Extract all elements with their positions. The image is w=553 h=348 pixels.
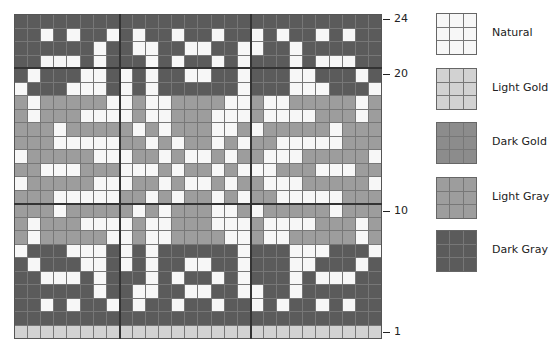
stitch-cell — [316, 245, 328, 258]
stitch-cell — [330, 299, 342, 312]
stitch-cell — [343, 69, 355, 82]
stitch-cell — [67, 177, 79, 190]
stitch-cell — [225, 83, 237, 96]
stitch-cell — [41, 15, 53, 28]
stitch-cell — [172, 42, 184, 55]
stitch-cell — [369, 272, 381, 285]
stitch-cell — [133, 204, 145, 217]
stitch-cell — [172, 272, 184, 285]
stitch-cell — [15, 245, 27, 258]
stitch-cell — [212, 218, 224, 231]
stitch-cell — [159, 137, 171, 150]
stitch-cell — [369, 245, 381, 258]
stitch-cell — [67, 312, 79, 325]
swatch-cell — [437, 192, 449, 205]
stitch-cell — [185, 42, 197, 55]
stitch-cell — [225, 218, 237, 231]
stitch-cell — [251, 69, 263, 82]
stitch-cell — [225, 299, 237, 312]
stitch-cell — [172, 218, 184, 231]
stitch-cell — [198, 312, 210, 325]
stitch-cell — [41, 69, 53, 82]
stitch-cell — [41, 29, 53, 42]
stitch-cell — [290, 258, 302, 271]
stitch-cell — [277, 29, 289, 42]
stitch-cell — [28, 110, 40, 123]
stitch-cell — [356, 191, 368, 204]
stitch-cell — [238, 231, 250, 244]
stitch-cell — [159, 83, 171, 96]
stitch-cell — [120, 191, 132, 204]
swatch-cell — [464, 83, 476, 96]
stitch-cell — [94, 137, 106, 150]
stitch-cell — [81, 258, 93, 271]
stitch-cell — [198, 272, 210, 285]
stitch-cell — [107, 258, 119, 271]
stitch-cell — [41, 83, 53, 96]
stitch-cell — [264, 15, 276, 28]
stitch-cell — [81, 164, 93, 177]
stitch-cell — [251, 177, 263, 190]
row-label-10: 10 — [383, 204, 408, 218]
stitch-cell — [225, 231, 237, 244]
stitch-cell — [28, 231, 40, 244]
stitch-cell — [54, 42, 66, 55]
stitch-cell — [225, 137, 237, 150]
stitch-cell — [212, 96, 224, 109]
stitch-cell — [133, 96, 145, 109]
stitch-cell — [185, 191, 197, 204]
stitch-cell — [107, 312, 119, 325]
stitch-cell — [343, 285, 355, 298]
stitch-cell — [67, 150, 79, 163]
stitch-cell — [107, 191, 119, 204]
stitch-cell — [290, 69, 302, 82]
stitch-cell — [356, 15, 368, 28]
stitch-cell — [81, 272, 93, 285]
stitch-cell — [107, 164, 119, 177]
stitch-cell — [159, 299, 171, 312]
stitch-cell — [330, 312, 342, 325]
stitch-cell — [330, 191, 342, 204]
stitch-cell — [81, 191, 93, 204]
stitch-cell — [264, 123, 276, 136]
stitch-cell — [159, 164, 171, 177]
stitch-cell — [81, 218, 93, 231]
stitch-cell — [198, 164, 210, 177]
stitch-cell — [212, 29, 224, 42]
stitch-cell — [225, 110, 237, 123]
stitch-cell — [81, 137, 93, 150]
stitch-cell — [316, 42, 328, 55]
stitch-cell — [330, 231, 342, 244]
stitch-cell — [15, 191, 27, 204]
stitch-cell — [316, 231, 328, 244]
stitch-cell — [290, 42, 302, 55]
stitch-cell — [238, 191, 250, 204]
stitch-cell — [303, 177, 315, 190]
stitch-cell — [369, 15, 381, 28]
stitch-cell — [356, 69, 368, 82]
stitch-cell — [133, 177, 145, 190]
stitch-cell — [15, 69, 27, 82]
stitch-cell — [172, 312, 184, 325]
stitch-cell — [185, 164, 197, 177]
swatch-cell — [437, 96, 449, 109]
stitch-cell — [28, 96, 40, 109]
stitch-cell — [15, 285, 27, 298]
stitch-cell — [277, 299, 289, 312]
stitch-cell — [81, 150, 93, 163]
stitch-cell — [159, 231, 171, 244]
stitch-cell — [212, 231, 224, 244]
stitch-cell — [198, 285, 210, 298]
stitch-cell — [316, 299, 328, 312]
stitch-cell — [133, 150, 145, 163]
stitch-cell — [172, 150, 184, 163]
stitch-cell — [54, 326, 66, 339]
stitch-cell — [330, 285, 342, 298]
stitch-cell — [146, 164, 158, 177]
stitch-cell — [159, 29, 171, 42]
stitch-cell — [41, 204, 53, 217]
stitch-cell — [356, 245, 368, 258]
stitch-cell — [120, 285, 132, 298]
stitch-cell — [146, 177, 158, 190]
stitch-cell — [81, 326, 93, 339]
